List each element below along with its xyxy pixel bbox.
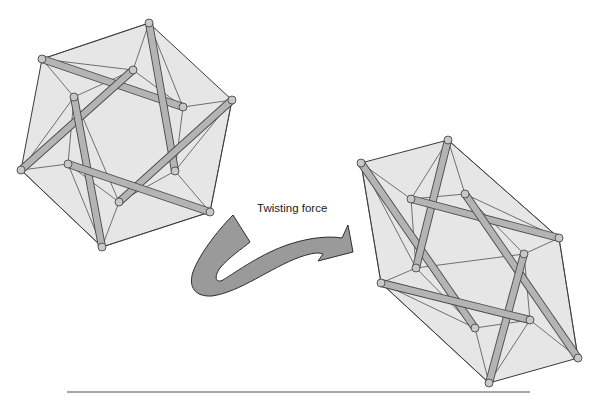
hull-face — [361, 140, 578, 383]
joint-node-icon — [98, 243, 106, 251]
joint-node-icon — [461, 190, 469, 198]
joint-node-icon — [115, 198, 123, 206]
joint-node-icon — [526, 316, 534, 324]
joint-node-icon — [555, 234, 563, 242]
joint-node-icon — [64, 160, 72, 168]
joint-node-icon — [485, 379, 493, 387]
joint-node-icon — [145, 19, 153, 27]
joint-node-icon — [38, 55, 46, 63]
joint-node-icon — [357, 159, 365, 167]
joint-node-icon — [407, 195, 415, 203]
joint-node-icon — [129, 66, 137, 74]
joint-node-icon — [520, 250, 528, 258]
joint-node-icon — [444, 136, 452, 144]
tensegrity-twisting-diagram: Twisting force — [0, 0, 594, 400]
joint-node-icon — [471, 324, 479, 332]
joint-node-icon — [377, 279, 385, 287]
joint-node-icon — [70, 93, 78, 101]
joint-node-icon — [574, 354, 582, 362]
twisting-force-label: Twisting force — [257, 202, 327, 214]
joint-node-icon — [179, 103, 187, 111]
joint-node-icon — [171, 167, 179, 175]
joint-node-icon — [412, 264, 420, 272]
joint-node-icon — [228, 96, 236, 104]
hull-face — [21, 23, 232, 247]
right-tensegrity-icosahedron-twisted — [357, 136, 582, 387]
left-tensegrity-icosahedron — [17, 19, 236, 251]
twisting-force-arrow-icon — [191, 215, 353, 296]
joint-node-icon — [206, 208, 214, 216]
joint-node-icon — [17, 166, 25, 174]
